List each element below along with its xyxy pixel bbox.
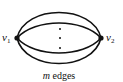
- edge-outer-top: [17, 13, 101, 39]
- vertex-v1: [14, 35, 19, 40]
- edge-inner-bottom: [17, 38, 101, 53]
- vertex-v1-label: v1: [2, 31, 11, 45]
- vertex-v2: [98, 35, 103, 40]
- vertical-ellipsis: [59, 28, 61, 49]
- edge-outer-bottom: [17, 38, 101, 64]
- edge-inner-top: [17, 23, 101, 38]
- vertex-v2-label: v2: [106, 31, 115, 45]
- edges-caption: m edges: [43, 70, 76, 81]
- multigraph-diagram: v1 v2 m edges: [0, 0, 123, 82]
